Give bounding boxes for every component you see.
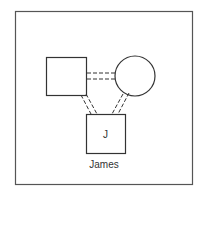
child-initial-label: J bbox=[86, 129, 125, 140]
child-name-label: James bbox=[74, 159, 134, 170]
mother-node-circle bbox=[115, 56, 155, 96]
partnership-line bbox=[87, 73, 115, 79]
father-node-square bbox=[47, 58, 87, 96]
father-child-line bbox=[81, 94, 97, 114]
mother-child-line bbox=[112, 93, 129, 114]
